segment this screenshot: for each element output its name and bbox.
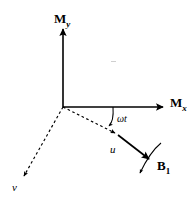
axis-line-v	[24, 107, 63, 176]
axis-label-mx: Mx	[170, 96, 187, 113]
vector-diagram-figure: My Mx B1 u v ωt	[0, 0, 195, 203]
arc-omega-t	[109, 107, 113, 126]
axis-label-u: u	[110, 144, 116, 155]
axis-label-v: v	[12, 182, 17, 193]
scan-artifact-mark	[111, 61, 116, 62]
axis-label-my: My	[54, 12, 70, 29]
axis-label-my-subscript: y	[66, 19, 70, 29]
vector-label-b1-subscript: 1	[166, 166, 171, 176]
axis-line-u	[63, 107, 115, 133]
angle-label-omega-t: ωt	[117, 114, 127, 124]
vector-label-b1: B1	[157, 159, 170, 176]
vector-line-b1	[118, 135, 149, 159]
axis-label-mx-subscript: x	[182, 103, 187, 113]
